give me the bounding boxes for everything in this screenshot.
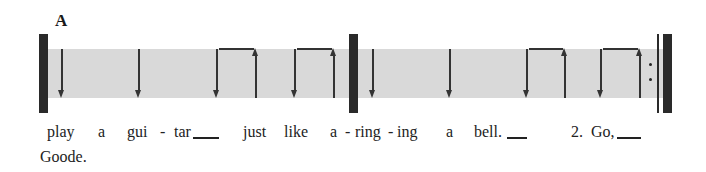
eighth-beam <box>297 48 332 50</box>
down-strum-arrow-icon <box>449 49 450 93</box>
repeat-dot-upper <box>649 63 652 66</box>
up-strum-arrow-icon <box>255 54 256 98</box>
lyric-syllable: bell. <box>474 124 502 140</box>
down-strum-arrow-icon <box>294 49 295 93</box>
up-strum-arrow-icon <box>333 54 334 98</box>
lyric-syllable: 2. <box>571 124 583 140</box>
lyric-syllable: - <box>160 124 165 140</box>
up-strum-arrow-icon <box>564 54 565 98</box>
lyric-syllable: Goode. <box>40 149 87 165</box>
start-barline <box>39 34 48 113</box>
lyric-blank-1 <box>193 137 219 139</box>
lyric-syllable: - <box>388 124 393 140</box>
section-label: A <box>55 11 67 31</box>
down-strum-arrow-icon <box>216 49 217 93</box>
measure-barline <box>349 34 358 113</box>
down-strum-arrow-icon <box>138 49 139 93</box>
down-strum-arrow-icon <box>526 49 527 93</box>
eighth-beam <box>529 48 563 50</box>
lyric-blank-3 <box>617 137 641 139</box>
repeat-thick-barline <box>663 34 672 113</box>
lyric-syllable: - <box>345 124 350 140</box>
lyric-syllable: a <box>98 124 105 140</box>
lyric-syllable: gui <box>127 124 147 140</box>
lyric-syllable: a <box>446 124 453 140</box>
lyric-syllable: just <box>243 124 266 140</box>
lyric-syllable: tar <box>174 124 191 140</box>
eighth-beam <box>219 48 254 50</box>
eighth-beam <box>603 48 638 50</box>
down-strum-arrow-icon <box>600 49 601 93</box>
lyric-syllable: ing <box>397 124 417 140</box>
down-strum-arrow-icon <box>61 49 62 93</box>
up-strum-arrow-icon <box>639 54 640 98</box>
lyric-syllable: a <box>330 124 337 140</box>
lyric-syllable: ring <box>355 124 381 140</box>
down-strum-arrow-icon <box>372 49 373 93</box>
lyric-syllable: like <box>284 124 308 140</box>
repeat-thin-barline <box>657 34 659 113</box>
lyric-syllable: Go, <box>591 124 615 140</box>
repeat-dot-lower <box>649 78 652 81</box>
lyric-blank-2 <box>507 137 527 139</box>
lyric-syllable: play <box>47 124 75 140</box>
